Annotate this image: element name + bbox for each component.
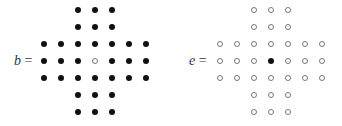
peg-filled-r4-c6 <box>143 75 149 81</box>
peg-empty-r5-c3 <box>268 92 274 98</box>
peg-filled-r4-c0 <box>41 75 47 81</box>
peg-empty-r4-c5 <box>302 75 308 81</box>
peg-filled-r3-c5 <box>126 58 132 64</box>
peg-empty-r1-c4 <box>285 24 291 30</box>
peg-empty-r3-c4 <box>285 58 291 64</box>
peg-empty-r4-c0 <box>217 75 223 81</box>
peg-filled-r2-c2 <box>75 41 81 47</box>
board-e-label: e = <box>189 54 207 68</box>
peg-filled-r4-c5 <box>126 75 132 81</box>
peg-filled-r1-c3 <box>92 24 98 30</box>
peg-empty-r0-c4 <box>285 7 291 13</box>
peg-filled-r2-c0 <box>41 41 47 47</box>
board-b-equals: = <box>25 53 33 68</box>
board-e-variable: e <box>189 53 195 68</box>
peg-empty-r4-c1 <box>234 75 240 81</box>
peg-empty-r3-c2 <box>251 58 257 64</box>
peg-empty-r2-c0 <box>217 41 223 47</box>
peg-empty-r6-c4 <box>285 109 291 115</box>
peg-empty-r2-c3 <box>268 41 274 47</box>
peg-empty-r3-c6 <box>319 58 325 64</box>
peg-filled-r6-c2 <box>75 109 81 115</box>
peg-empty-r1-c3 <box>268 24 274 30</box>
peg-filled-r2-c3 <box>92 41 98 47</box>
peg-filled-r1-c2 <box>75 24 81 30</box>
peg-filled-r3-c4 <box>109 58 115 64</box>
peg-filled-r0-c3 <box>92 7 98 13</box>
peg-empty-r3-c0 <box>217 58 223 64</box>
peg-empty-r0-c2 <box>251 7 257 13</box>
peg-filled-r2-c4 <box>109 41 115 47</box>
peg-empty-r2-c1 <box>234 41 240 47</box>
peg-empty-r2-c5 <box>302 41 308 47</box>
peg-empty-r2-c4 <box>285 41 291 47</box>
peg-filled-r5-c2 <box>75 92 81 98</box>
peg-empty-r0-c3 <box>268 7 274 13</box>
peg-filled-r4-c3 <box>92 75 98 81</box>
peg-empty-r1-c2 <box>251 24 257 30</box>
peg-filled-r3-c0 <box>41 58 47 64</box>
peg-empty-r5-c4 <box>285 92 291 98</box>
board-b-variable: b <box>14 53 21 68</box>
peg-filled-r0-c4 <box>109 7 115 13</box>
board-e: e = <box>171 0 342 126</box>
peg-filled-r1-c4 <box>109 24 115 30</box>
peg-empty-r3-c5 <box>302 58 308 64</box>
peg-empty-r2-c2 <box>251 41 257 47</box>
peg-filled-r3-c2 <box>75 58 81 64</box>
peg-filled-r2-c1 <box>58 41 64 47</box>
peg-filled-r2-c6 <box>143 41 149 47</box>
peg-filled-r5-c4 <box>109 92 115 98</box>
peg-filled-r4-c4 <box>109 75 115 81</box>
peg-empty-r4-c6 <box>319 75 325 81</box>
peg-empty-r4-c4 <box>285 75 291 81</box>
peg-empty-r4-c2 <box>251 75 257 81</box>
peg-filled-r3-c6 <box>143 58 149 64</box>
peg-filled-r4-c1 <box>58 75 64 81</box>
board-e-equals: = <box>199 53 207 68</box>
peg-empty-r3-c3 <box>92 58 98 64</box>
peg-empty-r2-c6 <box>319 41 325 47</box>
board-b: b = <box>0 0 171 126</box>
peg-empty-r3-c1 <box>234 58 240 64</box>
peg-filled-r2-c5 <box>126 41 132 47</box>
peg-empty-r6-c3 <box>268 109 274 115</box>
peg-filled-r4-c2 <box>75 75 81 81</box>
peg-empty-r4-c3 <box>268 75 274 81</box>
peg-filled-r3-c1 <box>58 58 64 64</box>
board-b-label: b = <box>14 54 32 68</box>
peg-filled-r6-c4 <box>109 109 115 115</box>
peg-empty-r5-c2 <box>251 92 257 98</box>
peg-filled-r0-c2 <box>75 7 81 13</box>
peg-filled-r5-c3 <box>92 92 98 98</box>
peg-filled-r6-c3 <box>92 109 98 115</box>
peg-empty-r6-c2 <box>251 109 257 115</box>
peg-filled-r3-c3 <box>268 58 274 64</box>
